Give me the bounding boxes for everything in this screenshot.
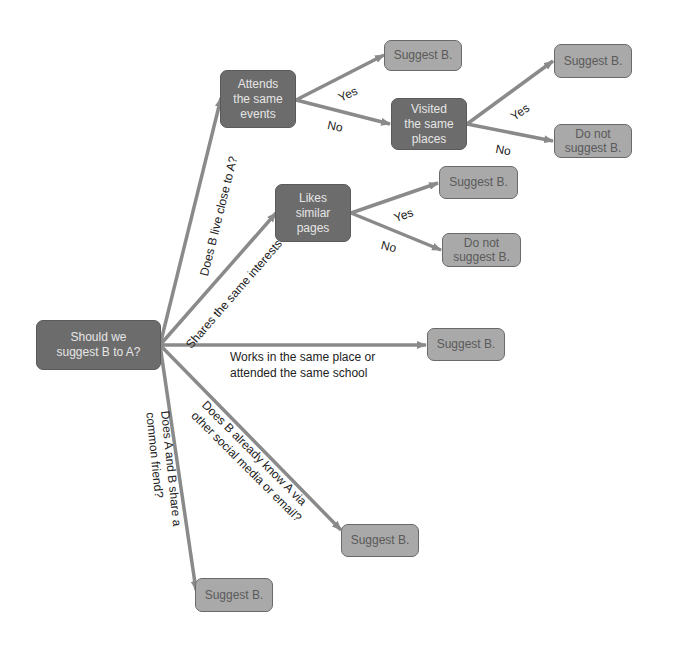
suggest-b-works-node: Suggest B.	[427, 328, 505, 361]
decision-tree-diagram: Should we suggest B to A? Attends the sa…	[0, 0, 675, 646]
root-question-node: Should we suggest B to A?	[36, 320, 161, 370]
suggest-b-knows-via-node: Suggest B.	[341, 524, 419, 557]
do-not-suggest-visited-no-node: Do not suggest B.	[554, 124, 632, 158]
likes-similar-pages-node: Likes similar pages	[275, 184, 351, 242]
label-visited-no: No	[494, 142, 512, 159]
edge-likes-yes	[351, 183, 438, 213]
suggest-b-attends-yes-node: Suggest B.	[384, 40, 462, 71]
label-works-school: Works in the same place or attended the …	[230, 349, 375, 381]
attends-same-events-node: Attends the same events	[220, 70, 296, 128]
suggest-b-common-friend-node: Suggest B.	[195, 578, 273, 612]
suggest-b-likes-yes-node: Suggest B.	[439, 166, 518, 199]
suggest-b-visited-yes-node: Suggest B.	[554, 44, 632, 78]
visited-same-places-node: Visited the same places	[391, 98, 467, 150]
edge-visited-no	[467, 124, 553, 141]
do-not-suggest-likes-no-node: Do not suggest B.	[442, 233, 521, 267]
label-attends-no: No	[326, 118, 344, 136]
